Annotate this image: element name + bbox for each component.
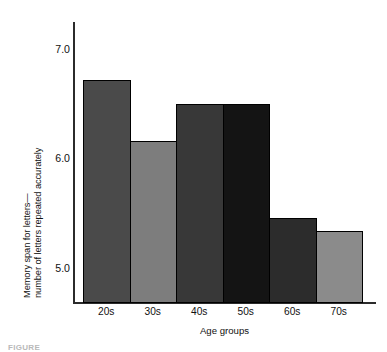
- x-axis-tick-label: 20s: [83, 306, 130, 318]
- bar: [223, 104, 271, 303]
- x-axis-tick-label: 30s: [130, 306, 177, 318]
- x-axis-tick-label: 50s: [223, 306, 270, 318]
- y-axis-tick-labels: 7.06.05.0: [36, 0, 70, 310]
- bar: [130, 141, 178, 303]
- y-axis-tick-label: 7.0: [36, 44, 70, 55]
- plot-area: [74, 22, 376, 303]
- x-axis-tick-label: 40s: [176, 306, 223, 318]
- y-axis-tick-label: 5.0: [36, 263, 70, 274]
- y-axis-title-line-1: Memory span for letters—: [22, 193, 33, 298]
- x-axis-tick-label: 60s: [269, 306, 316, 318]
- bar: [83, 80, 131, 303]
- figure-caption: FIGURE: [8, 343, 40, 352]
- x-axis-title: Age groups: [73, 325, 376, 336]
- bar: [269, 218, 317, 303]
- x-axis-tick-labels: 20s30s40s50s60s70s: [83, 306, 362, 318]
- bar-chart-figure: Memory span for letters— number of lette…: [0, 0, 387, 352]
- y-axis-tick-label: 6.0: [36, 153, 70, 164]
- bar: [176, 104, 224, 303]
- x-axis-tick-label: 70s: [316, 306, 363, 318]
- bar: [316, 231, 364, 303]
- bar-series: [83, 22, 362, 303]
